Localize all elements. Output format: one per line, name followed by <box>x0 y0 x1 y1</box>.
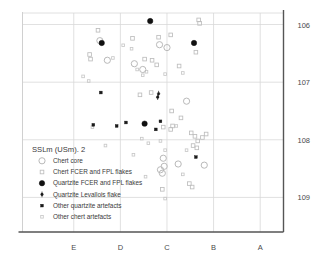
data-point <box>143 57 147 61</box>
data-point <box>191 144 195 148</box>
legend-label: Quartzite FCER and FPL flakes <box>53 179 142 187</box>
legend-title: SSLm (USm). 2 <box>32 145 85 154</box>
plot-svg: 106107108109 EDCBA SSLm (USm). 2Chert co… <box>0 0 318 256</box>
data-point <box>99 40 104 45</box>
data-point <box>179 116 183 120</box>
data-point <box>155 63 159 67</box>
data-point <box>159 140 162 143</box>
y-tick-label: 107 <box>298 78 311 87</box>
data-point <box>183 98 189 104</box>
data-point <box>193 135 197 139</box>
data-point <box>175 161 181 167</box>
legend-marker <box>39 181 44 186</box>
data-point <box>164 73 167 76</box>
data-point <box>96 28 100 32</box>
x-tick-label: C <box>164 243 170 252</box>
data-point <box>170 109 174 113</box>
data-point <box>177 64 181 68</box>
y-tick-label: 109 <box>298 193 311 202</box>
data-point <box>136 68 139 71</box>
data-point <box>82 75 85 78</box>
y-axis-tick-labels: 106107108109 <box>298 21 311 203</box>
data-point <box>169 33 173 37</box>
data-point <box>160 155 166 161</box>
data-point <box>201 162 207 168</box>
data-point <box>132 153 135 156</box>
data-point <box>138 93 142 97</box>
data-point <box>104 144 107 147</box>
data-point <box>150 58 154 62</box>
data-point <box>140 66 146 72</box>
legend-marker <box>41 216 44 219</box>
data-point <box>195 146 199 150</box>
legend-label: Other chert artefacts <box>53 213 111 220</box>
data-point <box>161 163 167 169</box>
data-point <box>175 125 178 128</box>
series-chert-fcer-and-fpl-flakes <box>88 18 208 191</box>
legend-label: Chert core <box>53 157 83 164</box>
data-point <box>92 123 95 126</box>
data-point <box>194 156 197 159</box>
data-point <box>141 137 144 140</box>
data-point <box>125 121 128 124</box>
legend-label: Other quartzite artefacts <box>53 202 122 210</box>
y-tick-label: 108 <box>298 136 311 145</box>
legend-marker <box>40 170 44 174</box>
data-point <box>89 57 93 61</box>
data-point <box>115 125 118 128</box>
data-point <box>87 80 90 83</box>
legend-label: Chert FCER and FPL flakes <box>53 168 132 175</box>
data-point <box>182 173 185 176</box>
data-point <box>189 131 193 135</box>
data-point <box>204 132 208 136</box>
legend-label: Quartzite Levallois flake <box>53 191 121 199</box>
y-tick-label: 106 <box>298 21 311 30</box>
x-axis-tick-labels: EDCBA <box>71 243 262 252</box>
data-point <box>164 197 167 200</box>
data-point <box>156 42 162 48</box>
legend-marker <box>39 158 45 164</box>
data-point <box>182 72 185 75</box>
data-point <box>99 91 102 94</box>
data-point <box>148 18 153 23</box>
scatter-chart: 106107108109 EDCBA SSLm (USm). 2Chert co… <box>0 0 318 256</box>
data-point <box>161 188 165 192</box>
legend-marker <box>41 204 44 207</box>
x-tick-label: E <box>71 243 76 252</box>
data-point <box>147 142 150 145</box>
data-point <box>164 149 167 152</box>
data-point <box>154 128 157 131</box>
data-point <box>144 175 147 178</box>
data-point <box>131 61 137 67</box>
data-point <box>141 74 144 77</box>
x-tick-label: A <box>258 243 263 252</box>
data-point <box>104 57 110 63</box>
data-point <box>191 40 196 45</box>
data-point <box>112 57 115 60</box>
data-point <box>149 91 153 95</box>
data-point <box>130 47 133 50</box>
series-other-chert-artefacts <box>82 44 188 200</box>
legend-marker <box>41 192 44 198</box>
data-point <box>157 35 161 39</box>
axis-lines <box>19 10 284 232</box>
data-point <box>131 37 135 41</box>
data-point <box>122 44 125 47</box>
series-quartzite-levallois-flake <box>156 91 160 100</box>
data-point <box>161 125 165 129</box>
data-point <box>142 121 147 126</box>
data-point <box>201 136 205 140</box>
data-point <box>88 53 92 57</box>
gridlines <box>23 13 284 232</box>
legend: SSLm (USm). 2Chert coreChert FCER and FP… <box>32 145 142 220</box>
data-point <box>159 120 162 123</box>
x-tick-label: D <box>118 243 124 252</box>
data-point <box>194 50 198 54</box>
data-point <box>185 149 188 152</box>
x-tick-label: B <box>211 243 216 252</box>
